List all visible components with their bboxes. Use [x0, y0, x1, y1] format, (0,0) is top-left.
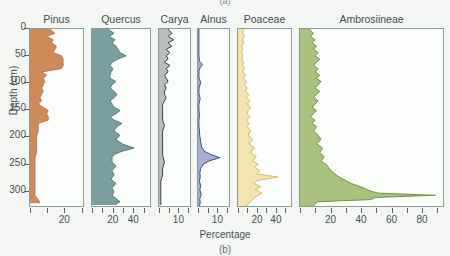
x-tick-mark	[169, 208, 170, 213]
x-tick-label: 20	[251, 214, 262, 225]
x-tick-label: 80	[417, 214, 428, 225]
x-tick-mark	[257, 208, 258, 213]
x-tick-label: 20	[59, 214, 70, 225]
x-tick-mark	[376, 208, 377, 213]
panel-title-quercus: Quercus	[101, 13, 141, 25]
x-tick-mark	[247, 208, 248, 213]
x-axis-alnus: 10	[198, 208, 229, 213]
x-tick-mark	[92, 208, 93, 213]
x-tick-mark	[188, 208, 189, 213]
x-axis-quercus: 2040	[92, 208, 150, 213]
x-tick-mark	[392, 208, 393, 213]
x-tick-label: 40	[355, 214, 366, 225]
panel-alnus: Alnus10	[197, 28, 230, 207]
x-tick-label: 60	[386, 214, 397, 225]
panel-title-ambrosiineae: Ambrosiineae	[339, 13, 403, 25]
panel-title-carya: Carya	[160, 13, 188, 25]
x-tick-mark	[208, 208, 209, 213]
x-tick-label: 20	[325, 214, 336, 225]
figure-caption-top: (a)	[0, 0, 450, 6]
panel-poaceae: Poaceae2040	[237, 28, 292, 207]
x-tick-mark	[123, 208, 124, 213]
x-tick-mark	[238, 208, 239, 213]
panel-title-pinus: Pinus	[43, 13, 69, 25]
x-tick-mark	[102, 208, 103, 213]
x-axis-pinus: 20	[30, 208, 83, 213]
curve-ambrosiineae	[300, 29, 443, 206]
depth-axis: Depth (cm) 050100150200250300	[0, 0, 26, 256]
x-tick-mark	[331, 208, 332, 213]
x-tick-mark	[361, 208, 362, 213]
panel-pinus: Pinus20	[29, 28, 84, 207]
panel-ambrosiineae: Ambrosiineae20406080	[299, 28, 444, 207]
depth-tick-label: 100	[4, 76, 26, 86]
x-tick-mark	[82, 208, 83, 213]
x-tick-mark	[227, 208, 228, 213]
curve-alnus	[198, 29, 229, 206]
x-tick-mark	[47, 208, 48, 213]
y-axis-title: Depth (cm)	[8, 56, 19, 126]
panel-quercus: Quercus2040	[91, 28, 151, 207]
x-tick-label: 10	[212, 214, 223, 225]
depth-tick-label: 0	[4, 22, 26, 32]
figure-caption-bottom: (b)	[0, 244, 450, 255]
depth-tick-label: 150	[4, 103, 26, 113]
panel-carya: Carya10	[158, 28, 191, 207]
x-tick-mark	[276, 208, 277, 213]
depth-tick-label: 50	[4, 49, 26, 59]
x-tick-mark	[315, 208, 316, 213]
x-tick-mark	[300, 208, 301, 213]
depth-tick-label: 300	[4, 185, 26, 195]
x-tick-mark	[159, 208, 160, 213]
x-tick-label: 10	[173, 214, 184, 225]
panel-title-poaceae: Poaceae	[244, 13, 285, 25]
x-tick-mark	[407, 208, 408, 213]
x-tick-label: 40	[128, 214, 139, 225]
x-tick-mark	[437, 208, 438, 213]
x-tick-mark	[30, 208, 31, 213]
x-tick-mark	[198, 208, 199, 213]
x-tick-mark	[266, 208, 267, 213]
x-tick-mark	[133, 208, 134, 213]
curve-quercus	[92, 29, 150, 206]
x-tick-label: 40	[270, 214, 281, 225]
x-tick-mark	[113, 208, 114, 213]
pollen-diagram-figure: (a) Depth (cm) 050100150200250300 Pinus2…	[0, 0, 450, 256]
x-axis-poaceae: 2040	[238, 208, 291, 213]
x-axis-ambrosiineae: 20406080	[300, 208, 443, 213]
depth-tick-label: 200	[4, 130, 26, 140]
x-tick-mark	[144, 208, 145, 213]
curve-carya	[159, 29, 190, 206]
x-tick-mark	[64, 208, 65, 213]
x-tick-mark	[178, 208, 179, 213]
depth-tick-label: 250	[4, 158, 26, 168]
curve-pinus	[30, 29, 83, 206]
x-tick-mark	[346, 208, 347, 213]
panel-title-alnus: Alnus	[200, 13, 226, 25]
x-axis-carya: 10	[159, 208, 190, 213]
x-tick-label: 20	[107, 214, 118, 225]
x-tick-mark	[422, 208, 423, 213]
x-tick-mark	[217, 208, 218, 213]
curve-poaceae	[238, 29, 291, 206]
x-tick-mark	[285, 208, 286, 213]
x-axis-title: Percentage	[0, 229, 450, 240]
